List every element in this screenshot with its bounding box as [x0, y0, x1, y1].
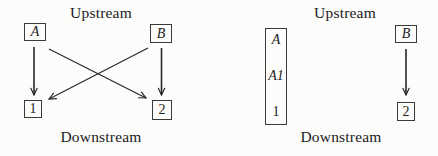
- right-downstream-label: Downstream: [300, 128, 381, 146]
- left-upstream-label: Upstream: [70, 4, 132, 22]
- merged-node-label-1: 1: [273, 105, 280, 119]
- left-node-1: 1: [24, 100, 42, 118]
- left-downstream-label: Downstream: [60, 128, 141, 146]
- right-node-2: 2: [397, 102, 415, 121]
- right-node-b: B: [395, 25, 417, 43]
- right-merged-node-a-a1-1: A A1 1: [265, 28, 287, 125]
- figure-canvas: Upstream A B 1 2 Downstream Upstream A A…: [0, 0, 438, 156]
- left-node-a: A: [24, 23, 46, 41]
- right-upstream-label: Upstream: [314, 4, 376, 22]
- left-node-b: B: [150, 24, 172, 43]
- merged-node-label-a1: A1: [268, 69, 284, 83]
- edge-b-to-1-arrow: [49, 48, 148, 99]
- left-node-2: 2: [152, 100, 172, 120]
- edge-a-to-2-arrow: [49, 49, 146, 98]
- merged-node-label-a: A: [272, 33, 281, 47]
